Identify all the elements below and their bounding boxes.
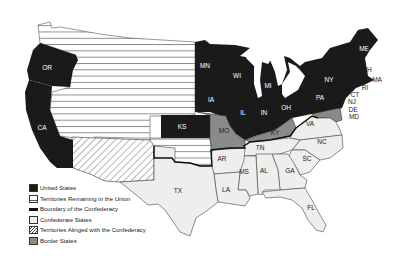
label-ny: NY [324,76,334,83]
label-ks: KS [178,123,187,130]
swatch-border-states [29,237,38,245]
label-de: DE [348,106,358,113]
label-wi: WI [233,72,241,79]
label-tn: TN [256,144,265,151]
label-vt: VT [338,48,346,55]
swatch-territories-aligned [29,226,38,234]
swatch-united-states [29,184,38,192]
label-ri: RI [362,84,369,91]
label-va: VA [306,120,315,127]
label-ct: CT [351,91,360,98]
label-ma: MA [372,76,382,83]
label-tx: TX [174,187,183,194]
label-in: IN [261,109,268,116]
label-mo: MO [219,127,229,134]
label-al: AL [260,167,268,174]
legend-item-territories-union: Territories Remaining in the Union [29,194,159,204]
label-mi: MI [264,82,271,89]
label-il: IL [240,109,246,116]
swatch-territories-union [29,195,38,203]
swatch-confederate [29,216,38,224]
label-nc: NC [317,138,327,145]
label-ar: AR [217,155,226,162]
label-sc: SC [302,155,311,162]
legend-item-confederate: Confederate States [29,215,159,225]
label-nj: NJ [348,98,356,105]
state-ks [161,115,212,138]
legend: United States Territories Remaining in t… [29,183,159,247]
label-me: ME [359,45,369,52]
label-md: MD [349,113,359,120]
label-or: OR [42,64,52,71]
label-mn: MN [200,62,210,69]
legend-item-united-states: United States [29,183,159,193]
label-nh: NH [362,66,372,73]
label-ky: KY [271,129,280,136]
legend-item-border-states: Border States [29,236,159,246]
label-ia: IA [208,96,215,103]
legend-item-boundary: Boundary of the Confederacy [29,204,159,214]
territories-aligned-region [71,137,154,182]
label-ga: GA [285,167,295,174]
label-ca: CA [37,124,47,131]
label-pa: PA [316,94,325,101]
state-fl [262,188,326,232]
legend-item-territories-aligned: Territories Alinged with the Confederacy [29,225,159,235]
label-oh: OH [281,104,291,111]
label-fl: FL [307,204,315,211]
swatch-boundary [29,208,38,211]
label-la: LA [222,186,231,193]
label-ms: MS [239,168,249,175]
